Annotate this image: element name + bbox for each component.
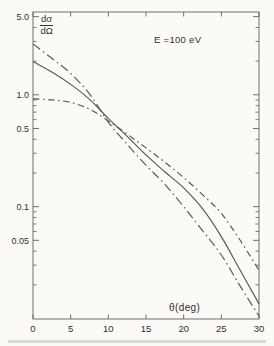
y-tick-label: 0.5 [16,124,29,134]
y-axis-label-fraction: dσ dΩ [40,14,53,36]
x-tick-label: 15 [141,323,152,334]
y-tick-label: 1.0 [16,90,29,100]
x-tick-label: 10 [103,323,114,334]
curve-flat-dash-dot-curve [33,99,259,270]
x-tick-label: 20 [178,323,189,334]
y-axis-label-numerator: dσ [40,14,53,26]
x-axis-label: θ(deg) [169,302,200,313]
curve-solid-curve [33,62,259,304]
y-axis-label-denominator: dΩ [40,26,53,37]
x-tick-label: 25 [216,323,227,334]
plot-svg: 5.01.00.50.10.05051015202530 [0,0,274,346]
figure: 5.01.00.50.10.05051015202530 dσ dΩ E =10… [0,0,274,346]
curve-steep-dash-dot-curve [33,44,259,316]
scan-artifact-line [8,340,266,343]
y-tick-label: 0.1 [16,202,29,212]
y-tick-label: 0.05 [11,236,29,246]
energy-annotation: E =100 eV [154,34,201,45]
x-tick-label: 30 [254,323,265,334]
x-tick-label: 5 [68,323,73,334]
x-tick-label: 0 [30,323,35,334]
y-tick-label: 5.0 [16,12,29,22]
